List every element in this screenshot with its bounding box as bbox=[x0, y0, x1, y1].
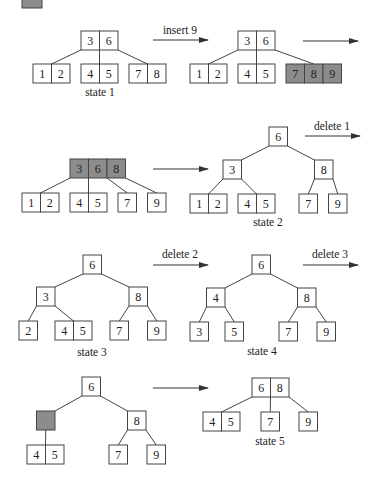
btree-node-l2: 7 bbox=[299, 194, 318, 213]
btree-node-l3: 9 bbox=[317, 322, 336, 341]
node-key: 2 bbox=[215, 67, 221, 81]
btree-node-l3: 9 bbox=[148, 321, 167, 340]
btree-node-i0: 3 bbox=[37, 287, 56, 306]
tree-state-2: 638124579 bbox=[190, 127, 347, 213]
btree-node-l2: 78 bbox=[129, 64, 166, 83]
btree-node-l2: 9 bbox=[147, 445, 166, 464]
btree-diagram: 3612457836124578936812457963812457963824… bbox=[0, 0, 378, 483]
node-key: 7 bbox=[116, 324, 122, 338]
btree-node-l3: 9 bbox=[148, 193, 167, 212]
btree-node-l0: 12 bbox=[22, 193, 59, 212]
tree-edge bbox=[222, 397, 253, 412]
btree-node-l0: 12 bbox=[190, 194, 227, 213]
node-key: 8 bbox=[134, 414, 140, 428]
node-key: 9 bbox=[154, 196, 160, 210]
btree-node-l0: 45 bbox=[203, 412, 240, 431]
node-key: 3 bbox=[87, 34, 93, 48]
state-label: state 5 bbox=[255, 435, 285, 447]
btree-node-l1: 7 bbox=[109, 445, 128, 464]
node-key: 3 bbox=[244, 34, 250, 48]
node-key: 3 bbox=[76, 162, 82, 176]
node-key: 7 bbox=[124, 196, 130, 210]
node-key: 4 bbox=[76, 196, 82, 210]
node-key: 2 bbox=[25, 324, 31, 338]
tree-edge bbox=[119, 306, 129, 321]
node-key: 4 bbox=[33, 448, 39, 462]
node-key: 7 bbox=[292, 67, 298, 81]
btree-node-root: 68 bbox=[252, 378, 289, 397]
node-key: 8 bbox=[113, 162, 119, 176]
tree-edge bbox=[55, 396, 82, 411]
node-key: 4 bbox=[213, 291, 219, 305]
node-key: 8 bbox=[304, 291, 310, 305]
tree-edge bbox=[242, 146, 270, 160]
tree-edge bbox=[102, 274, 130, 287]
node-key: 3 bbox=[43, 290, 49, 304]
tree-edge bbox=[271, 274, 298, 288]
tree-edge bbox=[41, 178, 71, 193]
btree-node-root: 6 bbox=[252, 255, 271, 274]
btree-node-l1: 45 bbox=[55, 321, 92, 340]
btree-node-l1: 45 bbox=[238, 64, 275, 83]
node-key: 3 bbox=[229, 163, 235, 177]
btree-node-l2: 7 bbox=[279, 322, 298, 341]
tree-state-4: 6483579 bbox=[190, 255, 336, 341]
btree-node-i1: 8 bbox=[298, 288, 317, 307]
btree-node-l1: 45 bbox=[70, 193, 107, 212]
tree-edge bbox=[107, 178, 127, 193]
node-key: 9 bbox=[335, 197, 341, 211]
node-key: 5 bbox=[263, 197, 269, 211]
tree-edge bbox=[199, 307, 206, 322]
tree-edges-state-5 bbox=[222, 397, 309, 412]
tree-edge bbox=[225, 274, 252, 288]
btree-node-i0: 4 bbox=[207, 288, 226, 307]
btree-node-i1: 8 bbox=[128, 411, 147, 430]
btree-node-l2: 9 bbox=[299, 412, 318, 431]
btree-node-l1: 7 bbox=[261, 412, 280, 431]
operation-label: delete 1 bbox=[314, 120, 350, 132]
btree-node-root: 6 bbox=[82, 377, 101, 396]
btree-node-l0: 2 bbox=[19, 321, 38, 340]
tree-edge bbox=[148, 306, 157, 321]
btree-node-i0: 3 bbox=[223, 160, 242, 179]
btree-node-root: 36 bbox=[81, 31, 118, 50]
btree-node-l0: 12 bbox=[190, 64, 227, 83]
tree-edges-overflow-root bbox=[41, 178, 157, 193]
btree-node-root: 368 bbox=[70, 159, 126, 178]
node-key: 4 bbox=[244, 197, 250, 211]
node-key: 1 bbox=[39, 67, 45, 81]
btree-node-l0: 3 bbox=[190, 322, 209, 341]
node-key: 5 bbox=[52, 448, 58, 462]
tree-edge bbox=[28, 306, 36, 321]
node-key: 5 bbox=[263, 67, 269, 81]
node-key: 2 bbox=[47, 196, 53, 210]
btree-node-root: 6 bbox=[269, 127, 288, 146]
btree-node-l0: 12 bbox=[33, 64, 70, 83]
btree-node-l1: 45 bbox=[238, 194, 275, 213]
node-key: 2 bbox=[215, 197, 221, 211]
state-label: state 2 bbox=[253, 216, 283, 228]
btree-node-l0: 45 bbox=[27, 445, 64, 464]
node-key: 9 bbox=[153, 448, 159, 462]
highlight-legend-swatch bbox=[22, 0, 42, 8]
node-key: 7 bbox=[267, 415, 273, 429]
node-key: 5 bbox=[228, 415, 234, 429]
tree-edge bbox=[146, 430, 156, 445]
node-key: 1 bbox=[196, 67, 202, 81]
node-key: 6 bbox=[275, 130, 281, 144]
node-key: 7 bbox=[135, 67, 141, 81]
node-key: 4 bbox=[209, 415, 215, 429]
state-label: state 4 bbox=[247, 345, 277, 357]
btree-node-root: 6 bbox=[83, 255, 102, 274]
node-key: 6 bbox=[263, 34, 269, 48]
node-key: 7 bbox=[115, 448, 121, 462]
tree-edge bbox=[118, 50, 148, 64]
btree-node-l1: 45 bbox=[81, 64, 118, 83]
tree-state-3: 63824579 bbox=[19, 255, 166, 340]
transition-delete-2: delete 2 bbox=[153, 248, 208, 265]
tree-edges-state-1 bbox=[52, 50, 148, 64]
node-key: 5 bbox=[231, 325, 237, 339]
operation-label: delete 3 bbox=[312, 248, 348, 260]
node-key: 5 bbox=[80, 324, 86, 338]
tree-edge bbox=[55, 274, 83, 287]
